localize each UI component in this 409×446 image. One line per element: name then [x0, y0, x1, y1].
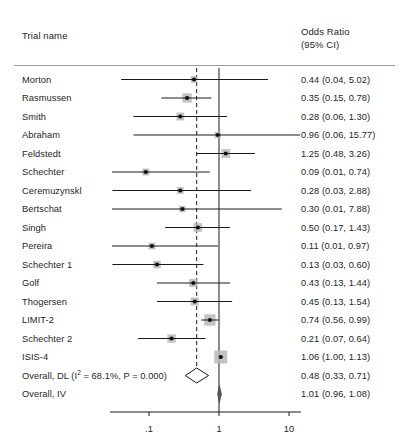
trial-name-label: Ceremuzynskl	[22, 186, 82, 196]
trial-name-label: Schechter 1	[22, 260, 72, 270]
summary-estimate	[218, 386, 222, 403]
trial-name-label: Golf	[22, 278, 39, 288]
point-estimate-marker	[208, 318, 212, 322]
odds-ratio-column-header: Odds Ratio	[301, 26, 350, 37]
trial-name-label: Rasmussen	[22, 93, 72, 103]
trial-name-label: ISIS-4	[22, 352, 48, 362]
point-estimate-marker	[150, 244, 154, 248]
point-estimate-marker	[178, 188, 182, 192]
odds-ratio-value: 0.44 (0.04, 5.02)	[301, 75, 370, 85]
trial-name-label: Abraham	[22, 130, 60, 140]
study-estimate	[133, 113, 227, 121]
odds-ratio-value: 0.43 (0.13, 1.44)	[301, 278, 370, 288]
odds-ratio-value: 1.25 (0.48, 3.26)	[301, 149, 370, 159]
odds-ratio-value: 1.06 (1.00, 1.13)	[301, 352, 370, 362]
forest-rows	[112, 76, 300, 402]
summary-diamond-open	[185, 368, 208, 383]
point-estimate-marker	[185, 96, 189, 100]
study-estimate	[112, 261, 203, 269]
study-estimate	[112, 169, 210, 176]
odds-ratio-value: 0.45 (0.13, 1.54)	[301, 297, 370, 307]
x-axis-tick-label: .1	[145, 424, 153, 434]
point-estimate-marker	[144, 170, 148, 174]
study-estimate	[165, 223, 230, 232]
odds-ratio-value: 0.50 (0.17, 1.43)	[301, 223, 370, 233]
odds-ratio-ci-subheader: (95% CI)	[301, 39, 339, 50]
odds-ratio-value: 0.35 (0.15, 0.78)	[301, 93, 370, 103]
trial-name-label: Overall, IV	[22, 389, 66, 399]
trial-name-label: Bertschat	[22, 204, 62, 214]
point-estimate-marker	[191, 281, 195, 285]
study-estimate	[214, 350, 227, 363]
point-estimate-marker	[178, 114, 182, 118]
odds-ratio-value: 0.11 (0.01, 0.97)	[301, 241, 369, 251]
point-estimate-marker	[224, 151, 228, 155]
study-estimate	[197, 149, 255, 158]
study-estimate	[112, 243, 218, 250]
trial-name-label: Smith	[22, 112, 46, 122]
point-estimate-marker	[180, 207, 184, 211]
point-estimate-marker	[193, 299, 197, 303]
odds-ratio-value: 0.21 (0.07, 0.64)	[301, 334, 370, 344]
trial-name-label: Thogersen	[22, 297, 67, 307]
study-estimate	[157, 297, 232, 305]
study-estimate	[161, 93, 211, 102]
trial-name-column-header: Trial name	[22, 30, 68, 41]
odds-ratio-value: 0.48 (0.33, 0.71)	[301, 371, 370, 381]
study-estimate	[201, 314, 218, 325]
odds-ratio-value: 0.74 (0.56, 0.99)	[301, 315, 370, 325]
odds-ratio-value: 1.01 (0.96, 1.08)	[301, 389, 370, 399]
summary-diamond-solid	[218, 386, 222, 403]
study-estimate	[112, 187, 251, 194]
odds-ratio-value: 0.28 (0.06, 1.30)	[301, 112, 370, 122]
x-axis	[110, 412, 301, 416]
point-estimate-marker	[219, 355, 223, 359]
header-divider	[14, 65, 395, 66]
summary-estimate	[185, 368, 208, 383]
x-axis-tick-label: 1	[216, 424, 221, 434]
trial-name-label: Schechter 2	[22, 334, 72, 344]
odds-ratio-value: 0.30 (0.01, 7.88)	[301, 204, 370, 214]
point-estimate-marker	[169, 336, 173, 340]
study-estimate	[138, 334, 205, 342]
trial-name-label: Singh	[22, 223, 46, 233]
odds-ratio-value: 0.13 (0.03, 0.60)	[301, 260, 370, 270]
point-estimate-marker	[216, 133, 220, 137]
odds-ratio-value: 0.96 (0.06, 15.77)	[301, 130, 375, 140]
trial-name-label: Feldstedt	[22, 149, 61, 159]
x-axis-tick-label: 10	[284, 424, 294, 434]
odds-ratio-value: 0.09 (0.01, 0.74)	[301, 167, 370, 177]
odds-ratio-value: 0.28 (0.03, 2.88)	[301, 186, 370, 196]
trial-name-label: Morton	[22, 75, 51, 85]
trial-name-label: Pereira	[22, 241, 52, 251]
trial-name-label: Schechter	[22, 167, 64, 177]
study-estimate	[121, 76, 268, 82]
point-estimate-marker	[155, 262, 159, 266]
trial-name-label: Overall, DL (I2 = 68.1%, P = 0.000)	[22, 371, 167, 381]
study-estimate	[133, 132, 300, 138]
point-estimate-marker	[192, 77, 196, 81]
trial-name-label: LIMIT-2	[22, 315, 54, 325]
point-estimate-marker	[196, 225, 200, 229]
